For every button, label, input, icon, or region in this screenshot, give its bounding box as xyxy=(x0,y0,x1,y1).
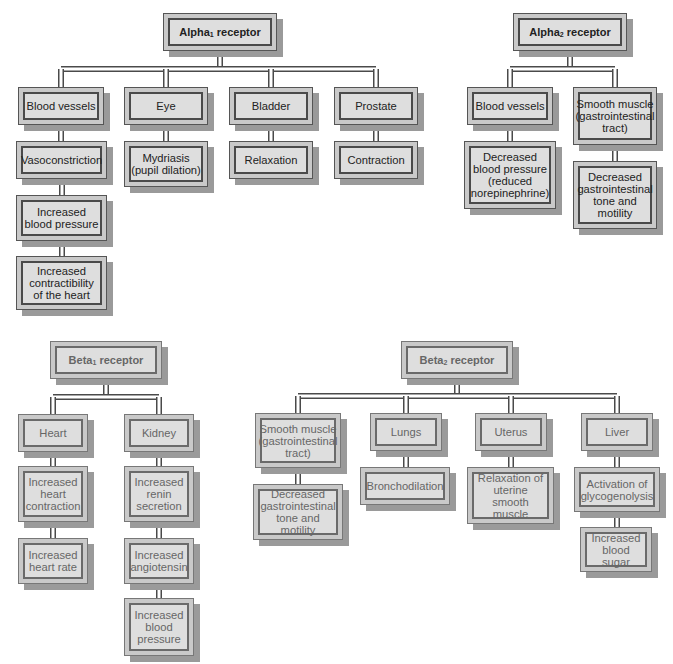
beta2-lungs-node: Lungs xyxy=(370,413,442,451)
alpha1-vasoconstriction-node: Vasoconstriction xyxy=(16,141,107,179)
alpha1-prostate-node: Prostate xyxy=(334,87,418,125)
alpha2-blood-vessels-node: Blood vessels xyxy=(467,87,553,125)
beta2-blood-sugar-node: Increased blood sugar xyxy=(580,527,652,572)
receptor-diagram: Alpha1 receptor Blood vessels Vasoconstr… xyxy=(0,0,673,664)
beta2-uterus-node: Uterus xyxy=(475,413,547,451)
alpha2-receptor-node: Alpha2 receptor xyxy=(513,13,627,51)
alpha1-contraction-node: Contraction xyxy=(334,141,418,179)
beta1-heart-contraction-node: Increased heart contraction xyxy=(18,466,88,522)
beta2-bronchodilation-node: Bronchodilation xyxy=(360,467,450,505)
alpha2-smooth-muscle-node: Smooth muscle (gastrointestinal tract) xyxy=(573,87,657,145)
beta2-liver-node: Liver xyxy=(581,413,653,451)
beta2-receptor-node: Beta2 receptor xyxy=(401,341,513,379)
beta2-uterine-relaxation-node: Relaxation of uterine smooth muscle xyxy=(467,467,554,524)
alpha1-eye-node: Eye xyxy=(124,87,208,125)
beta1-renin-node: Increased renin secretion xyxy=(124,466,194,522)
alpha1-bladder-node: Bladder xyxy=(229,87,313,125)
beta1-kidney-node: Kidney xyxy=(124,414,194,452)
beta1-heart-node: Heart xyxy=(18,414,88,452)
beta1-heart-rate-node: Increased heart rate xyxy=(18,538,88,584)
beta1-angiotensin-node: Increased angiotensin xyxy=(124,538,194,584)
alpha1-blood-vessels-node: Blood vessels xyxy=(18,87,104,125)
beta2-smooth-muscle-node: Smooth muscle (gastrointestinal tract) xyxy=(255,413,341,468)
alpha1-increased-bp-node: Increased blood pressure xyxy=(16,195,107,241)
alpha1-mydriasis-node: Mydriasis (pupil dilation) xyxy=(124,141,208,187)
alpha2-decreased-gi-node: Decreased gastrointestinal tone and moti… xyxy=(573,161,657,229)
beta1-increased-bp-node: Increased blood pressure xyxy=(124,598,194,656)
alpha1-increased-contractibility-node: Increased contractibility of the heart xyxy=(16,256,107,310)
alpha1-relaxation-node: Relaxation xyxy=(229,141,313,179)
beta2-glycogenolysis-node: Activation of glycogenolysis xyxy=(574,467,660,512)
alpha2-decreased-bp-node: Decreased blood pressure (reduced norepi… xyxy=(464,141,556,209)
alpha1-receptor-node: Alpha1 receptor xyxy=(163,13,277,51)
beta2-decreased-gi-node: Decreased gastrointestinal tone and moti… xyxy=(253,484,343,540)
beta1-receptor-node: Beta1 receptor xyxy=(50,341,162,379)
